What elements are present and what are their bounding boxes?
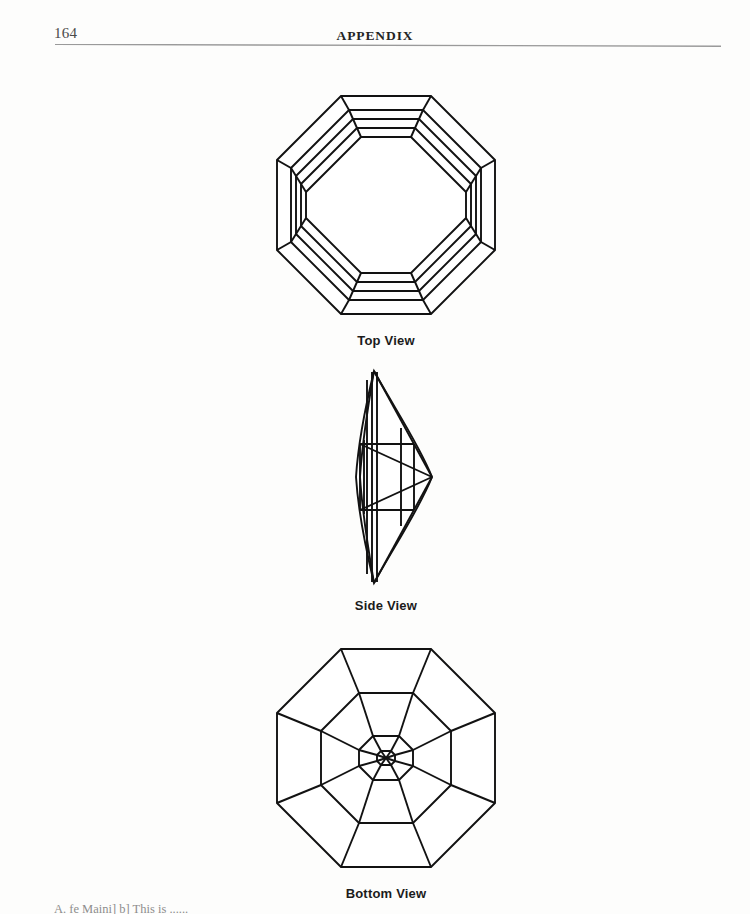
caption-bottom-view: Bottom View xyxy=(265,886,507,901)
top-view-diagram xyxy=(265,88,507,324)
figure-bottom-view: Bottom View xyxy=(265,641,507,901)
figure-top-view: Top View xyxy=(265,88,507,348)
cut-off-body-text: A. fe Maini] b] This is ...... xyxy=(54,903,694,914)
caption-side-view: Side View xyxy=(300,598,472,613)
figure-side-view: Side View xyxy=(300,366,472,613)
running-head-title: APPENDIX xyxy=(0,28,750,44)
bottom-view-diagram xyxy=(265,641,507,877)
header-rule xyxy=(55,44,721,47)
book-page: 164 APPENDIX xyxy=(0,0,750,914)
side-view-diagram xyxy=(300,366,472,588)
caption-top-view: Top View xyxy=(265,333,507,348)
